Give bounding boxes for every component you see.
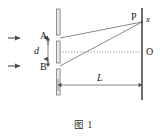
point-p-label: P xyxy=(131,12,137,22)
slit-separation-label: d xyxy=(34,46,39,56)
ray-B-to-P xyxy=(60,22,142,66)
point-p-marker xyxy=(141,21,143,23)
slit-label-b: B xyxy=(40,62,47,72)
ray-A-to-P xyxy=(60,22,142,38)
slit-label-a: A xyxy=(40,31,47,41)
screen-distance-label: L xyxy=(97,73,103,83)
axis-x-label: x xyxy=(146,15,150,24)
figure-caption: 图 1 xyxy=(0,117,167,131)
axis-origin-label: O xyxy=(146,47,153,57)
figure-container: A B d L P x O 图 1 xyxy=(0,0,167,138)
